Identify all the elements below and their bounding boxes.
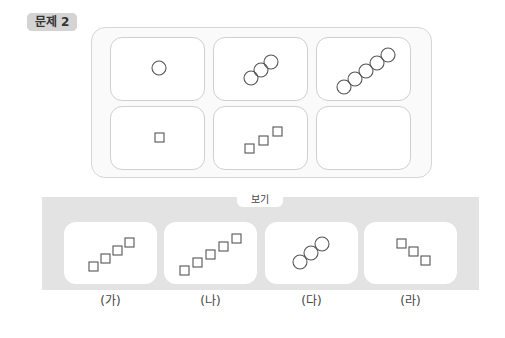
square-1-icon [111, 107, 206, 171]
option-na-label[interactable]: (나) [164, 291, 257, 308]
option-da-label[interactable]: (다) [265, 291, 358, 308]
circles-3-icon [265, 222, 358, 284]
squares-5-icon [164, 222, 257, 284]
option-da[interactable] [265, 222, 358, 284]
sequence-cell-2 [213, 37, 308, 101]
circles-5-icon [317, 38, 412, 102]
option-ra[interactable] [364, 222, 457, 284]
option-na[interactable] [164, 222, 257, 284]
sequence-cell-3 [316, 37, 411, 101]
squares-3-down-icon [364, 222, 457, 284]
circle-1-icon [111, 38, 206, 102]
options-tab-label: 보기 [237, 192, 283, 207]
sequence-cell-6-blank[interactable] [316, 106, 411, 170]
sequence-cell-4 [110, 106, 205, 170]
option-ga-label[interactable]: (가) [64, 291, 157, 308]
sequence-cell-1 [110, 37, 205, 101]
option-ra-label[interactable]: (라) [364, 291, 457, 308]
sequence-cell-5 [213, 106, 308, 170]
squares-4-icon [64, 222, 157, 284]
problem-number-label: 문제 2 [27, 13, 77, 31]
circles-3-icon [214, 38, 309, 102]
option-ga[interactable] [64, 222, 157, 284]
squares-3-icon [214, 107, 309, 171]
